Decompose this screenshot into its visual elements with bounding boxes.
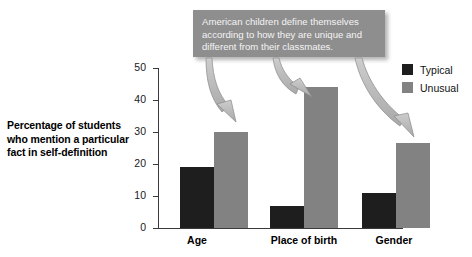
- y-tick-label-0: 0: [140, 221, 146, 233]
- annotation-line-1: American children define themselves: [202, 16, 376, 29]
- y-axis-label: Percentage of students who mention a par…: [7, 119, 139, 160]
- y-tick-label-30: 30: [134, 125, 146, 137]
- y-tick-label-20: 20: [134, 157, 146, 169]
- x-axis-line: [158, 228, 403, 229]
- bar-place-of-birth-typical: [270, 206, 304, 228]
- legend-swatch-typical-icon: [402, 64, 413, 75]
- y-tick-0: 0: [153, 228, 158, 229]
- x-category-label-age: Age: [187, 234, 207, 246]
- legend-label-unusual: Unusual: [420, 82, 459, 94]
- y-tick-label-50: 50: [134, 61, 146, 73]
- y-tick-label-40: 40: [134, 93, 146, 105]
- y-axis-label-line-1: Percentage of students: [7, 119, 139, 133]
- annotation-callout: American children define themselves acco…: [193, 10, 385, 57]
- bar-gender-unusual: [396, 143, 430, 228]
- y-tick-10: 10: [153, 196, 158, 197]
- y-tick-50: 50: [153, 68, 158, 69]
- bars-container: [159, 60, 403, 228]
- y-axis-label-line-2: who mention a particular: [7, 133, 139, 147]
- bar-age-typical: [180, 167, 214, 228]
- legend-label-typical: Typical: [420, 64, 453, 76]
- y-tick-20: 20: [153, 164, 158, 165]
- legend-item-unusual: Unusual: [402, 79, 459, 96]
- y-tick-40: 40: [153, 100, 158, 101]
- plot-area: 0 10 20 30 40 50: [158, 60, 403, 228]
- legend: Typical Unusual: [402, 61, 459, 97]
- bar-place-of-birth-unusual: [304, 87, 338, 228]
- chart-figure: Percentage of students who mention a par…: [0, 0, 472, 257]
- legend-item-typical: Typical: [402, 61, 459, 78]
- y-tick-label-10: 10: [134, 189, 146, 201]
- x-category-label-gender: Gender: [376, 234, 413, 246]
- legend-swatch-unusual-icon: [402, 82, 413, 93]
- y-tick-30: 30: [153, 132, 158, 133]
- bar-gender-typical: [362, 193, 396, 228]
- bar-age-unusual: [214, 132, 248, 228]
- annotation-line-3: different from their classmates.: [202, 41, 376, 54]
- x-category-label-place-of-birth: Place of birth: [271, 234, 338, 246]
- annotation-line-2: according to how they are unique and: [202, 29, 376, 42]
- y-axis-label-line-3: fact in self-definition: [7, 146, 139, 160]
